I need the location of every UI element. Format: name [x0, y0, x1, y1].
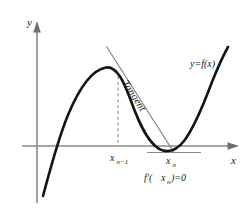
x-curr-subscript: n: [173, 161, 177, 169]
x-prev-subscript: n−1: [117, 158, 129, 166]
function-curve: [43, 47, 228, 196]
x-axis-label: x: [230, 154, 236, 166]
x-prev-label: x n−1: [109, 152, 128, 166]
y-axis-label: y: [26, 16, 32, 28]
newton-method-figure: y x y=f(x) Tangent x n−1 x n f′( x n )=0: [0, 0, 249, 215]
derivative-prime: f′(: [144, 172, 153, 184]
x-curr-base: x: [165, 155, 171, 166]
derivative-variable: x: [160, 172, 166, 183]
x-axis-arrowhead: [228, 142, 240, 150]
x-axis: [22, 142, 239, 150]
x-prev-base: x: [109, 152, 115, 163]
x-curr-label: x n: [165, 155, 177, 169]
y-axis: [33, 21, 41, 203]
y-axis-arrowhead: [33, 21, 41, 33]
derivative-tail: )=0: [170, 172, 186, 184]
derivative-equation-label: f′( x n )=0: [144, 172, 186, 186]
function-label: y=f(x): [189, 58, 216, 70]
